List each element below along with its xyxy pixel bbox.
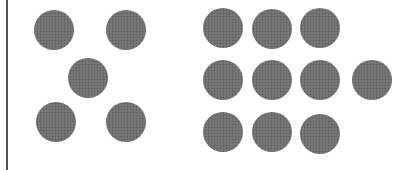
dot <box>203 112 243 152</box>
dot <box>203 60 243 100</box>
dot <box>68 58 108 98</box>
right-group <box>203 8 392 154</box>
dot <box>36 102 76 142</box>
dot-diagram <box>0 0 420 170</box>
dot <box>300 8 340 48</box>
dot <box>252 112 292 152</box>
dot <box>106 10 146 50</box>
left-group <box>34 10 146 142</box>
dot <box>300 60 340 100</box>
dot <box>203 8 243 48</box>
dot <box>252 9 292 49</box>
dot <box>352 60 392 100</box>
dot <box>300 114 340 154</box>
dot <box>106 102 146 142</box>
dot <box>34 10 74 50</box>
dot <box>252 60 292 100</box>
